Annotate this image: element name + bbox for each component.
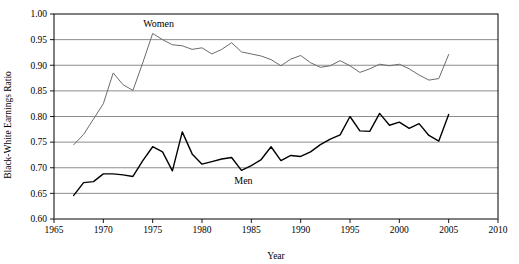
y-tick-label: 1.00 <box>30 9 47 19</box>
y-tick-label: 0.90 <box>30 61 47 71</box>
x-tick-label: 2000 <box>390 225 409 235</box>
y-tick-label: 0.75 <box>30 137 47 147</box>
x-tick-label: 1985 <box>242 225 261 235</box>
y-tick-label: 0.85 <box>30 86 47 96</box>
x-axis-title: Year <box>267 251 285 261</box>
y-tick-label: 0.65 <box>30 189 47 199</box>
series-label-men: Men <box>234 175 252 186</box>
y-tick-labels: 0.600.650.700.750.800.850.900.951.00 <box>30 9 47 224</box>
x-tick-label: 2005 <box>439 225 458 235</box>
y-tick-label: 0.70 <box>30 163 47 173</box>
x-tick-label: 1990 <box>291 225 310 235</box>
line-chart: 1965197019751980198519901995200020052010… <box>0 0 519 264</box>
x-tick-label: 2010 <box>489 225 508 235</box>
x-tick-label: 1980 <box>193 225 212 235</box>
x-tick-label: 1975 <box>143 225 162 235</box>
y-tick-label: 0.95 <box>30 35 47 45</box>
series-label-women: Women <box>143 18 174 29</box>
x-tick-label: 1965 <box>45 225 64 235</box>
y-tick-label: 0.80 <box>30 112 47 122</box>
y-axis-title: Black-White Earnings Ratio <box>3 71 13 179</box>
y-tick-label: 0.60 <box>30 214 47 224</box>
chart-figure: 1965197019751980198519901995200020052010… <box>0 0 519 264</box>
x-tick-label: 1995 <box>341 225 360 235</box>
x-tick-label: 1970 <box>94 225 113 235</box>
